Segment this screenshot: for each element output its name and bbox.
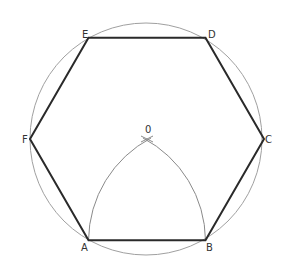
- vertex-label-f: F: [22, 134, 28, 145]
- vertex-label-c: C: [265, 134, 272, 145]
- construction-arc-from-b: [143, 138, 206, 240]
- hexagon-construction-figure: A B C D E F 0: [0, 0, 287, 269]
- vertex-label-a: A: [81, 242, 88, 253]
- diagram-canvas: A B C D E F 0: [0, 0, 287, 269]
- construction-arc-from-a: [89, 138, 152, 240]
- center-label-o: 0: [145, 124, 151, 135]
- vertex-label-e: E: [82, 29, 88, 40]
- vertex-label-d: D: [208, 29, 216, 40]
- vertex-label-b: B: [206, 242, 213, 253]
